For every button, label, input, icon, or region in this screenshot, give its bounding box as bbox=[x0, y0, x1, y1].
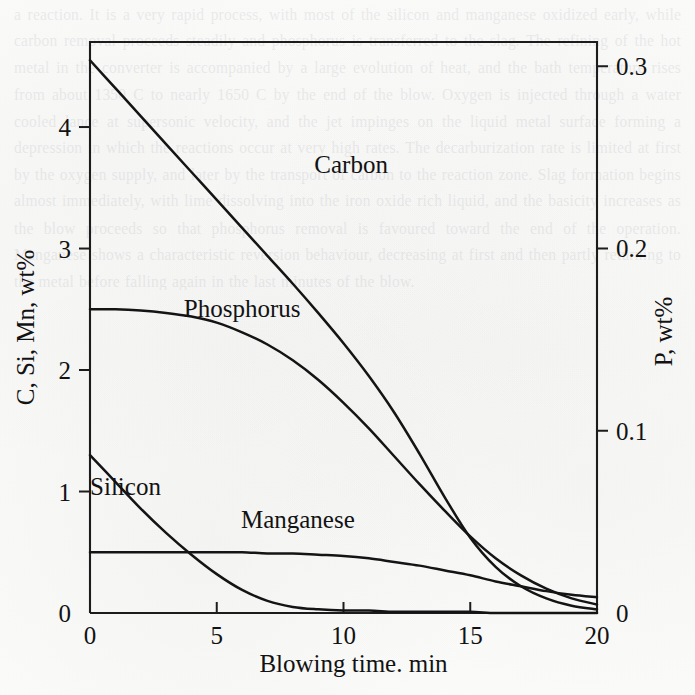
y-tick-label-right-2: 0.2 bbox=[616, 235, 647, 262]
x-tick-label-0: 0 bbox=[84, 622, 97, 649]
x-tick-label-1: 5 bbox=[211, 622, 224, 649]
x-tick-label-3: 15 bbox=[458, 622, 483, 649]
y-tick-label-right-0: 0 bbox=[616, 600, 629, 627]
figure-page: a reaction. It is a very rapid process, … bbox=[0, 0, 695, 695]
y-axis-title-right: P, wt% bbox=[650, 297, 677, 366]
x-tick-label-4: 20 bbox=[585, 622, 610, 649]
y-axis-title-left: C, Si, Mn, wt% bbox=[12, 250, 39, 406]
y-tick-label-right-1: 0.1 bbox=[616, 418, 647, 445]
x-axis-title: Blowing time. min bbox=[259, 650, 448, 677]
series-label-manganese: Manganese bbox=[241, 506, 355, 533]
y-tick-label-left-2: 2 bbox=[59, 357, 72, 384]
y-tick-label-left-1: 1 bbox=[59, 479, 72, 506]
series-label-phosphorus: Phosphorus bbox=[184, 295, 301, 322]
y-tick-label-left-0: 0 bbox=[59, 600, 72, 627]
x-tick-label-2: 10 bbox=[331, 622, 356, 649]
curve-silicon bbox=[90, 455, 597, 613]
curve-phosphorus bbox=[90, 309, 597, 604]
series-label-carbon: Carbon bbox=[314, 151, 388, 178]
line-chart: 0123400.10.20.305101520CarbonPhosphorusS… bbox=[0, 0, 695, 695]
y-tick-label-right-3: 0.3 bbox=[616, 53, 647, 80]
y-tick-label-left-3: 3 bbox=[59, 236, 72, 263]
series-label-silicon: Silicon bbox=[90, 473, 161, 500]
y-tick-label-left-4: 4 bbox=[59, 114, 72, 141]
